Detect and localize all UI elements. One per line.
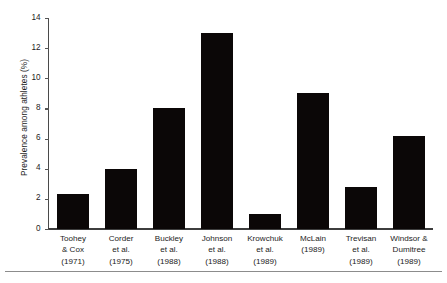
x-axis-label-line: Corder bbox=[97, 233, 145, 244]
x-axis-label-line: et al. bbox=[241, 244, 289, 255]
bar bbox=[153, 108, 185, 229]
x-axis-label-line: (1989) bbox=[241, 256, 289, 267]
y-axis-tick: 10 bbox=[45, 78, 49, 79]
y-axis-tick: 2 bbox=[45, 199, 49, 200]
bar bbox=[105, 169, 137, 229]
x-axis-label-line: Toohey bbox=[49, 233, 97, 244]
bar-slot bbox=[57, 18, 89, 229]
bar-slot bbox=[249, 18, 281, 229]
x-axis-label-line: et al. bbox=[337, 244, 385, 255]
y-axis-tick-label: 6 bbox=[36, 133, 41, 142]
y-axis-tick-label: 4 bbox=[36, 163, 41, 172]
y-axis-tick-label: 8 bbox=[36, 103, 41, 112]
x-axis-label-line: et al. bbox=[145, 244, 193, 255]
y-axis-tick-label: 0 bbox=[36, 224, 41, 233]
x-axis-label-line: (1988) bbox=[145, 256, 193, 267]
x-axis-label-line: McLain bbox=[289, 233, 337, 244]
bar-slot bbox=[153, 18, 185, 229]
bar-slot bbox=[105, 18, 137, 229]
x-axis-label-line: Buckley bbox=[145, 233, 193, 244]
x-axis-category-label: Johnsonet al.(1988) bbox=[193, 233, 241, 267]
bar-slot bbox=[345, 18, 377, 229]
x-axis-label-line: Dumitree bbox=[385, 244, 433, 255]
y-axis-tick: 4 bbox=[45, 169, 49, 170]
bar bbox=[57, 194, 89, 229]
x-axis-category-label: McLain(1989) bbox=[289, 233, 337, 256]
x-axis-label-line: (1989) bbox=[289, 244, 337, 255]
x-axis-category-label: Trevisanet al.(1989) bbox=[337, 233, 385, 267]
y-axis-tick: 12 bbox=[45, 48, 49, 49]
footer-divider bbox=[5, 271, 442, 272]
bar bbox=[201, 33, 233, 229]
y-axis-tick: 14 bbox=[45, 18, 49, 19]
x-axis-label-line: et al. bbox=[97, 244, 145, 255]
x-axis-category-label: Buckleyet al.(1988) bbox=[145, 233, 193, 267]
y-axis-tick: 0 bbox=[45, 229, 49, 230]
x-axis-label-line: et al. bbox=[193, 244, 241, 255]
x-axis-label-line: Johnson bbox=[193, 233, 241, 244]
x-axis-label-line: (1971) bbox=[49, 256, 97, 267]
bar-series bbox=[49, 18, 433, 229]
x-axis-category-label: Windsor &Dumitree(1989) bbox=[385, 233, 433, 267]
y-axis-tick-label: 14 bbox=[31, 13, 40, 22]
bar bbox=[345, 187, 377, 229]
bar-slot bbox=[393, 18, 425, 229]
x-axis-label-line: Krowchuk bbox=[241, 233, 289, 244]
y-axis-tick: 6 bbox=[45, 139, 49, 140]
x-axis-category-label: Krowchuket al.(1989) bbox=[241, 233, 289, 267]
bar bbox=[297, 93, 329, 229]
y-axis-tick: 8 bbox=[45, 108, 49, 109]
y-axis-tick-label: 10 bbox=[31, 73, 40, 82]
y-axis-tick-label: 12 bbox=[31, 43, 40, 52]
x-axis-label-line: & Cox bbox=[49, 244, 97, 255]
x-axis-label-line: (1989) bbox=[337, 256, 385, 267]
x-axis-label-line: (1988) bbox=[193, 256, 241, 267]
x-axis-label-line: Trevisan bbox=[337, 233, 385, 244]
bar bbox=[393, 136, 425, 229]
y-axis-tick-label: 2 bbox=[36, 193, 41, 202]
bar-chart-figure: Prevalence among athletes (%) 0246810121… bbox=[0, 0, 447, 283]
y-axis-title: Prevalence among athletes (%) bbox=[20, 18, 29, 218]
x-axis-category-label: Toohey& Cox(1971) bbox=[49, 233, 97, 267]
bar bbox=[249, 214, 281, 229]
x-axis-label-line: (1989) bbox=[385, 256, 433, 267]
x-axis-category-label: Corderet al.(1975) bbox=[97, 233, 145, 267]
plot-area: 02468101214 bbox=[48, 18, 433, 229]
x-axis-label-line: (1975) bbox=[97, 256, 145, 267]
x-axis-label-line: Windsor & bbox=[385, 233, 433, 244]
bar-slot bbox=[201, 18, 233, 229]
bar-slot bbox=[297, 18, 329, 229]
